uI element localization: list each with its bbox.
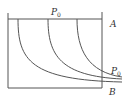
right-pressure-label: P0	[110, 66, 121, 77]
point-a-label: A	[109, 19, 117, 29]
pressure-curves-diagram: P0 A P0 B	[0, 0, 132, 99]
point-b-label: B	[108, 87, 116, 97]
top-pressure-label: P0	[50, 7, 61, 18]
